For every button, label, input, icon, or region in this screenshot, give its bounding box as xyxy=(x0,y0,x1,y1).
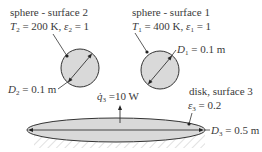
D2-symbol: D xyxy=(8,83,16,95)
D2-value: = 0.1 m xyxy=(19,83,56,95)
D3-value: = 0.5 m xyxy=(222,124,259,136)
D1-value: = 0.1 m xyxy=(188,43,225,55)
disk-surface-3 xyxy=(27,105,210,142)
T1-value: = 400 K, xyxy=(142,20,186,32)
q3-label: q̇3 =10 W xyxy=(97,90,139,102)
T2-value: = 200 K, xyxy=(20,20,64,32)
sphere-2-title: sphere - surface 2 xyxy=(10,6,88,18)
surface-2-marker xyxy=(65,54,68,57)
D3-symbol: D xyxy=(211,124,219,136)
q3-value: =10 W xyxy=(106,90,139,102)
surface-3-marker xyxy=(187,122,190,125)
sphere-1-title: sphere - surface 1 xyxy=(132,6,210,18)
eps3-value: = 0.2 xyxy=(196,99,221,111)
sphere-1-properties: T1 = 400 K, ε1 = 1 xyxy=(132,20,211,32)
sphere-surface-2 xyxy=(53,34,99,89)
D2-label: D2 = 0.1 m xyxy=(8,83,56,95)
D1-label: D1 = 0.1 m xyxy=(177,43,225,55)
eps3-label: ε3 = 0.2 xyxy=(188,99,221,111)
sphere-2-properties: T2 = 200 K, ε2 = 1 xyxy=(10,20,89,32)
surface-1-marker xyxy=(145,50,148,53)
D3-label: D3 = 0.5 m xyxy=(211,124,259,136)
eps2-value: = 1 xyxy=(72,20,89,32)
D1-symbol: D xyxy=(177,43,185,55)
disk-title: disk, surface 3 xyxy=(189,85,253,97)
eps1-value: = 1 xyxy=(194,20,211,32)
sphere-surface-1 xyxy=(135,33,179,89)
